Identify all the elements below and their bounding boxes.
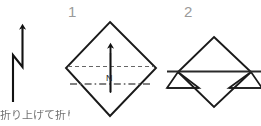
step1-figure: N xyxy=(66,22,156,116)
north-arrow-path xyxy=(13,27,23,102)
north-arrow-marker xyxy=(13,27,23,102)
step1-axis-letter: N xyxy=(106,73,113,83)
origami-figures-svg: N xyxy=(0,0,261,126)
step2-figure xyxy=(167,37,261,107)
step-number-2: 2 xyxy=(184,4,192,19)
caption-text: 折り上げて折り目を xyxy=(0,110,70,122)
step-number-1: 1 xyxy=(68,4,76,19)
origami-diagram-canvas: N 1 2 折り上げて折り目を xyxy=(0,0,261,126)
step2-right-folded-triangle xyxy=(229,72,261,88)
step2-left-folded-triangle xyxy=(167,72,199,88)
